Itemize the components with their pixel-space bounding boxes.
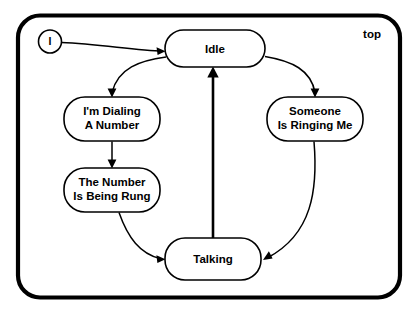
state-im-dialing-a-number[interactable]: I'm Dialing A Number [64,97,160,141]
state-talking[interactable]: Talking [165,238,261,280]
state-talking-label: Talking [193,253,232,265]
state-idle-label: Idle [205,43,225,55]
state-the-number-is-being-rung-label-line1: The Number [78,176,146,188]
state-idle[interactable]: Idle [165,30,265,67]
state-someone-is-ringing-me-label-line2: Is Ringing Me [278,119,353,131]
state-im-dialing-a-number-label-line1: I'm Dialing [83,105,141,117]
state-the-number-is-being-rung[interactable]: The Number Is Being Rung [64,168,160,212]
state-someone-is-ringing-me-label-line1: Someone [289,105,341,117]
region-label: top [363,28,381,40]
state-im-dialing-a-number-label-line2: A Number [85,119,140,131]
initial-state-label: I [49,35,52,47]
state-someone-is-ringing-me[interactable]: Someone Is Ringing Me [267,97,363,141]
state-the-number-is-being-rung-label-line2: Is Being Rung [73,190,150,202]
state-diagram-canvas: top I [0,0,417,315]
state-diagram: top I [0,0,417,315]
initial-state-marker: I [39,30,62,53]
